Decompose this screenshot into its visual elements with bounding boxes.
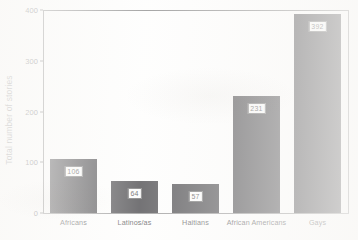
x-axis-tick-label: Africans [60, 218, 87, 227]
axis-line-right [348, 10, 349, 214]
x-axis-tick-label: African Americans [227, 218, 287, 227]
y-axis-tick-mark [40, 162, 43, 163]
bar[interactable]: 231 [233, 96, 280, 213]
axis-line-left [43, 10, 44, 214]
y-axis-title-text: Total number of stories [4, 75, 14, 164]
bar-value-label: 392 [308, 21, 326, 32]
axis-line-top [43, 10, 349, 11]
plot-area: 1066457231392 [43, 10, 348, 213]
y-axis-tick-mark [40, 60, 43, 61]
bar[interactable]: 392 [294, 14, 341, 213]
bar-chart-figure: Total number of stories 0100200300400 10… [0, 0, 358, 240]
bar[interactable]: 106 [50, 159, 97, 213]
y-axis-tick-mark [40, 10, 43, 11]
x-axis-tick-label: Gays [309, 218, 326, 227]
y-axis-tick-label: 0 [16, 209, 38, 218]
x-axis-tick-label: Haitians [182, 218, 209, 227]
y-axis-tick-mark [40, 213, 43, 214]
y-axis-tick-label: 100 [16, 158, 38, 167]
y-axis-tick-label: 300 [16, 56, 38, 65]
axis-line-bottom [43, 213, 349, 214]
x-axis-tick-label: Latinos/as [118, 218, 152, 227]
bar-value-label: 57 [188, 191, 202, 202]
x-axis-tick-labels: AfricansLatinos/asHaitiansAfrican Americ… [43, 216, 348, 232]
bar[interactable]: 57 [172, 184, 219, 213]
bar[interactable]: 64 [111, 181, 158, 213]
bar-value-label: 106 [64, 166, 82, 177]
y-axis-tick-label: 200 [16, 107, 38, 116]
bar-value-label: 231 [247, 103, 265, 114]
y-axis-tick-mark [40, 111, 43, 112]
y-axis-tick-labels: 0100200300400 [14, 0, 38, 240]
bar-value-label: 64 [127, 188, 141, 199]
y-axis-tick-label: 400 [16, 6, 38, 15]
